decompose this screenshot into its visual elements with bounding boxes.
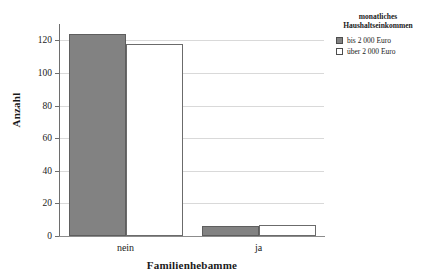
- y-tick-label: 60: [12, 133, 52, 143]
- x-axis-line: [59, 236, 325, 237]
- y-tick-mark: [55, 203, 59, 204]
- y-tick-mark: [55, 171, 59, 172]
- plot-area: 020406080100120 neinja: [59, 24, 325, 236]
- legend-title-line-1: monatliches: [330, 12, 426, 21]
- legend-item: über 2 000 Euro: [336, 47, 426, 56]
- y-tick-mark: [55, 236, 59, 237]
- bar-ja-series-1: [259, 225, 316, 236]
- legend-swatch-icon: [336, 48, 343, 55]
- y-tick-label: 100: [12, 68, 52, 78]
- legend-item: bis 2 000 Euro: [336, 36, 426, 45]
- y-tick-mark: [55, 106, 59, 107]
- y-tick-mark: [55, 40, 59, 41]
- legend-label: über 2 000 Euro: [347, 47, 396, 56]
- y-tick-label: 120: [12, 35, 52, 45]
- y-tick-label: 0: [12, 231, 52, 241]
- y-tick-label: 40: [12, 166, 52, 176]
- bar-ja-series-0: [202, 226, 259, 236]
- y-tick-mark: [55, 73, 59, 74]
- legend-items: bis 2 000 Euroüber 2 000 Euro: [330, 36, 426, 56]
- y-tick-mark: [55, 138, 59, 139]
- x-tick-label: ja: [255, 242, 262, 253]
- y-tick-label: 20: [12, 198, 52, 208]
- bar-nein-series-1: [126, 44, 183, 236]
- legend-title-line-2: Haushaltseinkommen: [330, 21, 426, 30]
- legend-title: monatliches Haushaltseinkommen: [330, 12, 426, 31]
- x-axis-title: Familienhebamme: [59, 259, 325, 271]
- x-tick-label: nein: [117, 242, 134, 253]
- y-tick-label: 80: [12, 101, 52, 111]
- legend: monatliches Haushaltseinkommen bis 2 000…: [330, 12, 426, 58]
- legend-label: bis 2 000 Euro: [347, 36, 391, 45]
- bar-nein-series-0: [69, 34, 126, 236]
- legend-swatch-icon: [336, 37, 343, 44]
- bar-chart: Anzahl 020406080100120 neinja Familienhe…: [0, 0, 428, 279]
